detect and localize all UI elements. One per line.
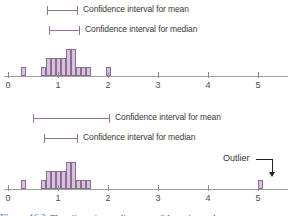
top-ci-mean-row: Confidence interval for mean	[0, 5, 290, 19]
ci-cap-right-icon	[109, 114, 110, 123]
x-axis-tick	[58, 185, 59, 191]
top-ci-median-bar	[49, 25, 80, 36]
top-ci-mean-bar	[47, 5, 78, 16]
x-axis-ticklabel: 1	[51, 193, 65, 203]
ci-cap-left-icon	[47, 6, 48, 15]
ci-cap-left-icon	[49, 26, 50, 35]
caption-text: The effect of an outlier on confidence i…	[50, 213, 219, 216]
x-axis-ticklabel: 4	[201, 193, 215, 203]
ci-cap-left-icon	[44, 134, 45, 143]
x-axis-tick	[108, 185, 109, 191]
bottom-ci-median-bar	[44, 133, 78, 144]
bottom-ci-mean-label: Confidence interval for mean	[115, 112, 221, 122]
x-axis-tick	[208, 185, 209, 191]
ci-line	[33, 118, 110, 119]
x-axis-ticklabel: 4	[201, 80, 215, 90]
x-axis-ticklabel: 3	[151, 193, 165, 203]
x-axis-tick	[258, 72, 259, 78]
histogram-bar	[86, 67, 91, 76]
x-axis-ticklabel: 5	[251, 193, 265, 203]
x-axis-tick	[58, 72, 59, 78]
x-axis-ticklabel: 1	[51, 80, 65, 90]
x-axis-tick	[108, 72, 109, 78]
histogram-bar	[86, 180, 91, 189]
bottom-ci-median-row: Confidence interval for median	[0, 133, 290, 147]
caption-number: Figure 16.2	[0, 213, 46, 216]
bottom-ci-median-label: Confidence interval for median	[83, 132, 195, 142]
figure-caption: Figure 16.2 The effect of an outlier on …	[0, 207, 290, 216]
bottom-ci-mean-row: Confidence interval for mean	[0, 113, 290, 127]
x-axis-tick	[208, 72, 209, 78]
top-ci-median-row: Confidence interval for median	[0, 25, 290, 39]
x-axis-tick	[158, 72, 159, 78]
x-axis-tick	[258, 185, 259, 191]
x-axis-ticklabel: 5	[251, 80, 265, 90]
x-axis-ticklabel: 3	[151, 80, 165, 90]
figure-container: Confidence interval for mean Confidence …	[0, 0, 290, 216]
top-x-axis	[4, 76, 288, 77]
histogram-bar	[21, 67, 26, 76]
x-axis-ticklabel: 2	[101, 193, 115, 203]
ci-line	[49, 30, 80, 31]
ci-line	[44, 138, 78, 139]
bottom-histogram: 012345	[0, 157, 290, 207]
ci-line	[47, 10, 78, 11]
ci-cap-right-icon	[79, 26, 80, 35]
ci-cap-left-icon	[33, 114, 34, 123]
panel-top: Confidence interval for mean Confidence …	[0, 0, 290, 100]
ci-cap-right-icon	[77, 134, 78, 143]
x-axis-ticklabel: 0	[1, 193, 15, 203]
ci-cap-right-icon	[77, 6, 78, 15]
top-histogram: 012345	[0, 44, 290, 100]
panel-bottom: Confidence interval for mean Confidence …	[0, 100, 290, 216]
bottom-ci-mean-bar	[33, 113, 110, 124]
x-axis-tick	[8, 185, 9, 191]
bottom-x-axis	[4, 189, 288, 190]
x-axis-ticklabel: 0	[1, 80, 15, 90]
top-ci-median-label: Confidence interval for median	[85, 24, 197, 34]
x-axis-tick	[8, 72, 9, 78]
x-axis-tick	[158, 185, 159, 191]
x-axis-ticklabel: 2	[101, 80, 115, 90]
top-ci-mean-label: Confidence interval for mean	[83, 4, 189, 14]
histogram-bar	[21, 180, 26, 189]
